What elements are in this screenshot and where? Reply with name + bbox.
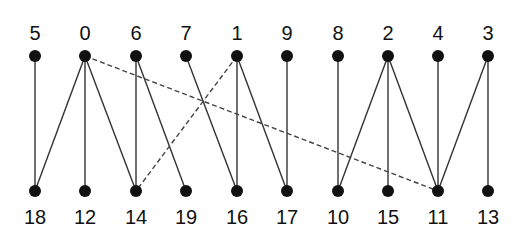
edge-3-11 [438,56,488,191]
node-label-5: 5 [29,22,40,44]
node-label-18: 18 [24,206,46,228]
node-label-0: 0 [79,22,90,44]
node-16 [231,185,243,197]
node-4 [432,50,444,62]
node-5 [29,50,41,62]
node-12 [79,185,91,197]
node-7 [180,50,192,62]
edges-layer [35,56,488,191]
node-label-9: 9 [281,22,292,44]
dashed-edge-0-11 [85,56,438,191]
node-14 [130,185,142,197]
node-label-11: 11 [428,206,449,228]
node-10 [332,185,344,197]
node-15 [382,185,394,197]
edge-0-14 [85,56,136,191]
node-8 [332,50,344,62]
node-label-4: 4 [432,22,443,44]
node-label-3: 3 [482,22,493,44]
labels-layer: 506719824318121419161710151113 [24,22,499,228]
edge-1-17 [237,56,287,191]
node-6 [130,50,142,62]
node-label-19: 19 [175,206,197,228]
edge-7-16 [186,56,237,191]
edge-0-18 [35,56,85,191]
node-1 [231,50,243,62]
edge-6-19 [136,56,186,191]
node-11 [432,185,444,197]
node-3 [482,50,494,62]
bipartite-graph-diagram: 506719824318121419161710151113 [0,0,519,247]
node-18 [29,185,41,197]
node-label-16: 16 [226,206,248,228]
node-label-8: 8 [332,22,343,44]
node-label-13: 13 [477,206,499,228]
graph-svg: 506719824318121419161710151113 [0,0,519,247]
node-label-15: 15 [377,206,399,228]
node-label-12: 12 [74,206,96,228]
edge-2-10 [338,56,388,191]
node-label-2: 2 [382,22,393,44]
node-label-6: 6 [130,22,141,44]
node-label-17: 17 [276,206,298,228]
edge-2-11 [388,56,438,191]
node-label-14: 14 [125,206,147,228]
node-19 [180,185,192,197]
node-label-1: 1 [231,22,242,44]
node-17 [281,185,293,197]
node-label-10: 10 [327,206,349,228]
node-2 [382,50,394,62]
node-9 [281,50,293,62]
node-label-7: 7 [180,22,191,44]
node-0 [79,50,91,62]
node-13 [482,185,494,197]
dashed-edge-1-14 [136,56,237,191]
